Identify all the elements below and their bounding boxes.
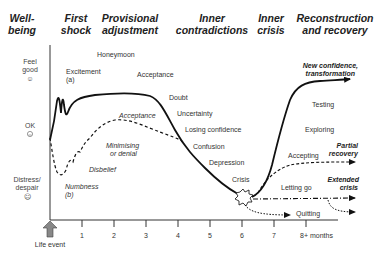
y-label-good: good — [22, 66, 38, 74]
svg-text:4: 4 — [176, 232, 180, 239]
recovery-labels: Testing Exploring Accepting Letting go Q… — [281, 101, 334, 218]
label-losing-confidence: Losing confidence — [185, 126, 242, 134]
svg-text:1: 1 — [80, 232, 84, 239]
svg-text:5: 5 — [208, 232, 212, 239]
y-axis-labels: Feel good ☺ OK Distress/ despair ☹ — [13, 58, 40, 200]
x-axis-tick-labels: 1 2 3 4 5 6 7 8+ months — [80, 232, 333, 239]
x-axis-ticks — [82, 220, 306, 227]
svg-text:3: 3 — [144, 232, 148, 239]
label-minimising: Minimising — [106, 142, 139, 150]
label-exploring: Exploring — [305, 126, 334, 134]
label-acceptance-lower: Acceptance — [118, 112, 156, 120]
header-reconstruction-1: Reconstruction — [296, 12, 373, 24]
label-numbness-tag: (b) — [65, 191, 74, 199]
header-first-shock-1: First — [65, 12, 88, 24]
y-label-ok: OK — [25, 122, 35, 129]
label-excitement: Excitement — [66, 68, 101, 75]
quitting-curve — [245, 205, 290, 215]
change-curve-diagram: Well- being First shock Provisional adju… — [0, 0, 382, 259]
header-inner-crisis-1: Inner — [258, 12, 285, 24]
label-disbelief: Disbelief — [89, 166, 117, 173]
life-event-arrow-icon — [43, 221, 57, 237]
label-partial: Partial — [337, 142, 359, 149]
label-new-confidence: New confidence, — [303, 62, 358, 70]
header-provisional-2: adjustment — [102, 24, 159, 36]
neutral-face-icon — [27, 131, 32, 136]
label-depression: Depression — [209, 159, 245, 167]
label-uncertainty: Uncertainty — [177, 110, 213, 118]
header-wellbeing-1: Well- — [10, 12, 35, 24]
y-label-feel: Feel — [23, 58, 37, 65]
label-acceptance-upper: Acceptance — [137, 71, 174, 79]
label-transformation: transformation — [306, 70, 355, 77]
header-wellbeing-2: being — [8, 24, 37, 36]
svg-text:2: 2 — [112, 232, 116, 239]
smile-icon: ☺ — [26, 75, 33, 82]
label-or-denial: or denial — [110, 150, 137, 157]
svg-text:6: 6 — [240, 232, 244, 239]
header-provisional-1: Provisional — [102, 12, 160, 24]
label-numbness: Numbness — [65, 183, 99, 190]
label-confusion: Confusion — [193, 143, 225, 150]
label-crisis: Crisis — [232, 176, 250, 183]
header-reconstruction-2: and recovery — [302, 24, 369, 36]
label-recovery: recovery — [329, 150, 359, 158]
svg-text:7: 7 — [272, 232, 276, 239]
header-inner-contradictions-1: Inner — [199, 12, 226, 24]
label-quitting: Quitting — [296, 210, 320, 218]
svg-text:8+ months: 8+ months — [300, 232, 333, 239]
upper-curve-labels: Honeymoon Excitement (a) Acceptance Doub… — [66, 51, 250, 183]
label-doubt: Doubt — [169, 94, 188, 101]
label-accepting: Accepting — [288, 152, 319, 160]
extended-crisis-dropoff — [328, 200, 355, 212]
label-extended: Extended — [327, 176, 359, 183]
crisis-star-icon — [235, 189, 253, 206]
header-inner-crisis-2: crisis — [257, 24, 285, 36]
y-label-despair: despair — [16, 184, 40, 192]
header-inner-contradictions-2: contradictions — [176, 24, 249, 36]
y-label-distress: Distress/ — [13, 176, 40, 183]
label-testing: Testing — [312, 101, 334, 109]
label-excitement-tag: (a) — [66, 76, 75, 84]
frown-icon: ☹ — [24, 193, 31, 200]
extended-crisis-line — [253, 198, 355, 199]
header-first-shock-2: shock — [61, 24, 93, 36]
life-event-label: Life event — [35, 241, 65, 248]
label-letting-go: Letting go — [281, 184, 312, 192]
label-honeymoon: Honeymoon — [97, 51, 135, 59]
label-crisis-outcome: crisis — [340, 184, 358, 191]
stage-headers: Well- being First shock Provisional adju… — [8, 12, 374, 36]
